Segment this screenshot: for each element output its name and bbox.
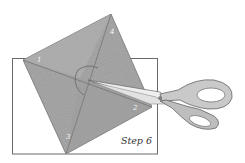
step-caption: Step 6 [120, 135, 153, 147]
corner-label-1: 1 [37, 56, 41, 64]
corner-label-4: 4 [110, 28, 114, 36]
corner-label-3: 3 [66, 133, 70, 141]
step-6-illustration: 1 4 2 3 Step 6 [0, 0, 245, 163]
folded-paper-diamond [23, 14, 152, 154]
corner-label-2: 2 [133, 104, 137, 112]
